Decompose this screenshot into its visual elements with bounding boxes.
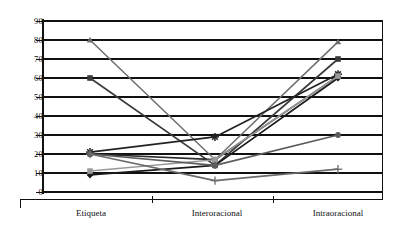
data-point-marker — [211, 133, 219, 141]
data-point-marker — [335, 39, 341, 45]
data-point-marker — [212, 157, 218, 163]
data-point-marker — [335, 132, 341, 138]
data-point-marker — [334, 165, 342, 173]
data-point-marker — [87, 168, 93, 174]
series-line — [90, 40, 338, 160]
data-series-layer — [0, 0, 397, 236]
chart-container: 90 80 70 60 50 40 30 20 10 0 — [0, 0, 397, 236]
data-point-marker — [212, 163, 218, 169]
data-point-marker — [335, 73, 341, 79]
data-point-marker — [211, 176, 219, 184]
x-tick-label-intraoracional: Intraoracional — [292, 208, 384, 218]
data-point-marker — [87, 75, 93, 81]
data-point-marker — [87, 37, 93, 43]
series-4 — [87, 73, 341, 162]
x-tick-label-etiqueta: Etiqueta — [55, 208, 127, 218]
series-line — [90, 74, 338, 152]
data-point-marker — [335, 56, 341, 62]
x-tick-label-interoracional: Interoracional — [172, 208, 262, 218]
